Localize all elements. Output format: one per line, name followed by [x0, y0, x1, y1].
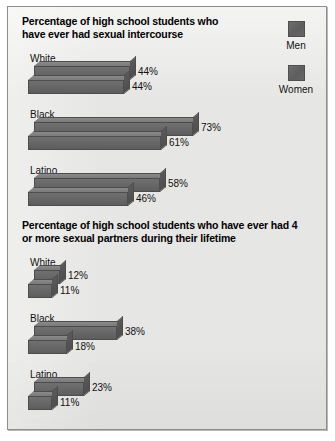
bar-end-face: [161, 126, 167, 150]
bar-women-black: [28, 136, 161, 150]
bar-front-face: [28, 284, 52, 298]
bar-value-women-latino-2: 11%: [60, 397, 79, 409]
bar-value-men-white: 44%: [138, 66, 158, 78]
bar-women-black-2: [28, 340, 67, 354]
bar-end-face: [124, 70, 130, 94]
chart-title-1: Percentage of high school students who h…: [22, 15, 244, 41]
bar-value-women-latino: 46%: [136, 193, 156, 205]
bar-women-white-2: [28, 284, 52, 298]
chart-title-2: Percentage of high school students who h…: [22, 219, 304, 245]
legend-swatch-men: [288, 21, 305, 37]
bar-end-face: [60, 260, 66, 284]
legend-item-men: Men: [270, 21, 322, 52]
bar-value-men-black-2: 38%: [125, 326, 145, 338]
bar-end-face: [128, 182, 134, 206]
figure-panel: Men Women Percentage of high school stud…: [7, 6, 327, 430]
bar-women-latino: [28, 192, 128, 206]
bar-women-white: [28, 80, 124, 94]
bar-value-women-white-2: 11%: [60, 285, 79, 297]
bar-end-face: [193, 112, 199, 136]
bar-front-face: [28, 396, 52, 410]
bar-end-face: [52, 274, 58, 298]
bar-value-men-latino: 58%: [168, 178, 188, 190]
bar-front-face: [28, 192, 128, 206]
bar-value-women-white: 44%: [132, 81, 152, 93]
bar-end-face: [130, 56, 136, 80]
bar-front-face: [28, 80, 124, 94]
bar-women-latino-2: [28, 396, 52, 410]
bar-end-face: [160, 168, 166, 192]
bar-end-face: [84, 372, 90, 396]
bar-end-face: [52, 386, 58, 410]
bar-front-face: [28, 136, 161, 150]
bar-value-men-white-2: 12%: [68, 270, 88, 282]
legend-label-men: Men: [270, 40, 322, 52]
bar-value-women-black-2: 18%: [75, 341, 95, 353]
bar-end-face: [117, 316, 123, 340]
bar-value-men-latino-2: 23%: [92, 382, 112, 394]
bar-value-men-black: 73%: [201, 122, 221, 134]
bar-end-face: [67, 330, 73, 354]
bar-value-women-black: 61%: [169, 137, 189, 149]
bar-front-face: [28, 340, 67, 354]
